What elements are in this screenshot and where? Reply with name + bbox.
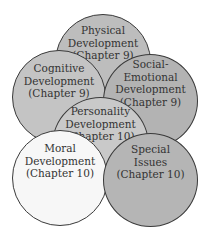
circle-label-line: Cognitive [34,62,85,75]
circle-label-line: Issues [134,156,167,169]
circle-label-line: (Chapter 9) [28,87,89,100]
circle-label-line: Special [131,143,170,156]
circle-label-line: Social- [133,58,169,71]
circle-moral-development: Moral Development (Chapter 10) [12,130,108,226]
circle-label-line: Emotional [123,71,177,84]
circle-label-line: Physical [81,24,125,37]
circle-label-line: Personality [71,105,130,118]
circle-label-line: Development [65,118,135,131]
circle-label-line: Moral [44,142,76,155]
circle-label-line: Development [68,37,138,50]
circle-label-line: (Chapter 10) [26,167,94,180]
circle-label-line: Development [115,83,185,96]
circle-label-line: (Chapter 10) [116,168,184,181]
circle-label-line: Development [24,75,94,88]
development-venn-diagram: Physical Development (Chapter 9) Cogniti… [0,0,210,243]
circle-label-line: Development [25,155,95,168]
circle-special-issues: Special Issues (Chapter 10) [103,133,198,227]
